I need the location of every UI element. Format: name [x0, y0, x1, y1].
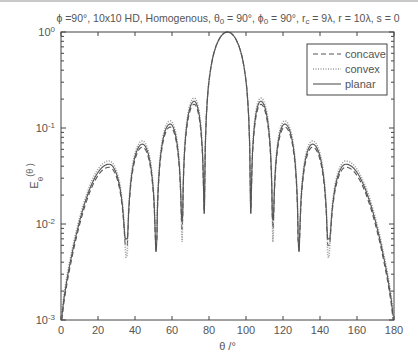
x-tick-label: 40	[129, 324, 141, 336]
x-tick-label: 100	[237, 324, 255, 336]
x-tick-label: 0	[58, 324, 64, 336]
chart-title: ϕ =90°, 10x10 HD, Homogenous, θ0 = 90°, …	[56, 12, 399, 26]
chart-svg: ϕ =90°, 10x10 HD, Homogenous, θ0 = 90°, …	[0, 2, 418, 357]
y-tick-label: 10-2	[36, 217, 56, 231]
y-tick-label: 10-3	[36, 313, 56, 327]
x-tick-label: 160	[348, 324, 366, 336]
chart-figure: ϕ =90°, 10x10 HD, Homogenous, θ0 = 90°, …	[0, 0, 418, 357]
legend-label-planar: planar	[345, 78, 376, 90]
x-tick-label: 80	[203, 324, 215, 336]
chart-title-text: ϕ =90°, 10x10 HD, Homogenous, θ0 = 90°, …	[56, 12, 399, 26]
legend: concaveconvexplanar	[307, 44, 387, 95]
x-tick-label: 140	[311, 324, 329, 336]
y-axis-label: Eθ(θ )	[25, 163, 45, 188]
x-tick-label: 120	[274, 324, 292, 336]
x-tick-label: 60	[166, 324, 178, 336]
x-tick-label: 180	[385, 324, 403, 336]
y-tick-label: 100	[38, 25, 55, 39]
y-tick-label: 10-1	[36, 121, 56, 135]
legend-label-concave: concave	[345, 48, 386, 60]
legend-label-convex: convex	[345, 63, 380, 75]
x-axis-label: θ /°	[219, 340, 236, 352]
x-tick-label: 20	[92, 324, 104, 336]
